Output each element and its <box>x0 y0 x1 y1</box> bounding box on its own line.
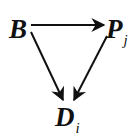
arrow-b-to-d <box>31 32 63 100</box>
node-p: Pj <box>106 16 128 43</box>
node-d-subscript: i <box>76 120 80 135</box>
node-b-label: B <box>9 14 27 44</box>
commutative-diagram: B Pj Di <box>0 0 140 135</box>
node-d-label: D <box>55 102 75 132</box>
node-p-label: P <box>106 14 123 44</box>
node-b: B <box>9 16 28 43</box>
node-p-subscript: j <box>124 32 128 48</box>
node-d: Di <box>55 104 80 131</box>
arrow-p-to-d <box>74 36 107 100</box>
